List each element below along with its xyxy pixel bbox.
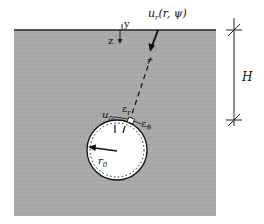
tunnel-circle <box>87 120 147 180</box>
depth-label: H <box>241 70 253 84</box>
depth-dimension <box>226 18 242 126</box>
displacement-label: ur(r, ψ) <box>148 7 187 22</box>
y-axis-label: y <box>123 18 130 29</box>
tunnel-diagram: y z ur(r, ψ) r r0 u0i εr εϑ <box>0 0 264 224</box>
z-axis-label: z <box>108 35 113 46</box>
